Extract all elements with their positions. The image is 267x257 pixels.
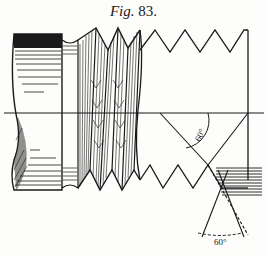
lower-angle-label: 60°	[214, 237, 227, 247]
cylindrical-shank	[12, 34, 62, 190]
threaded-section	[78, 28, 142, 190]
upper-angle-label: 60°	[193, 127, 208, 143]
neck	[62, 40, 78, 188]
figure-83: Fig. 83.	[0, 0, 267, 257]
thread-drawing: 60° 60°	[0, 0, 267, 257]
thread-profile-outline	[140, 30, 248, 188]
